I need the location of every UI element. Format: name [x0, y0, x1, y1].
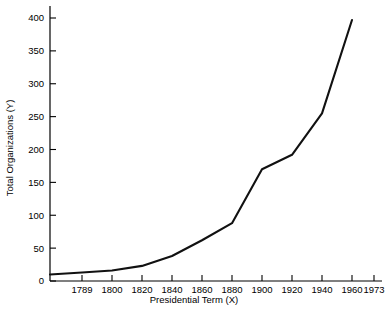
- data-series-line: [50, 20, 352, 274]
- y-axis-ticks: [50, 18, 56, 281]
- y-axis: 050100150200250300350400: [28, 6, 56, 286]
- y-axis-title: Total Organizations (Y): [4, 100, 15, 197]
- x-tick-label-1920: 1920: [281, 284, 302, 295]
- y-tick-label-0: 0: [39, 275, 44, 286]
- y-tick-label-400: 400: [28, 12, 44, 23]
- x-tick-label-1800: 1800: [101, 284, 122, 295]
- x-axis: 1789180018201840186018801900192019401960…: [50, 275, 385, 295]
- x-tick-label-1973: 1973: [363, 284, 384, 295]
- chart-container: 050100150200250300350400 178918001820184…: [0, 0, 389, 315]
- line-chart: 050100150200250300350400 178918001820184…: [0, 0, 389, 315]
- x-axis-title: Presidential Term (X): [150, 294, 239, 305]
- y-tick-label-150: 150: [28, 177, 44, 188]
- y-tick-label-250: 250: [28, 111, 44, 122]
- x-tick-label-1940: 1940: [311, 284, 332, 295]
- x-tick-label-1789: 1789: [71, 284, 92, 295]
- x-axis-ticks: [82, 275, 374, 281]
- y-tick-label-300: 300: [28, 78, 44, 89]
- y-tick-label-50: 50: [33, 243, 44, 254]
- y-axis-tick-labels: 050100150200250300350400: [28, 12, 44, 286]
- y-tick-label-100: 100: [28, 210, 44, 221]
- y-tick-label-200: 200: [28, 144, 44, 155]
- x-tick-label-1900: 1900: [251, 284, 272, 295]
- y-tick-label-350: 350: [28, 45, 44, 56]
- x-tick-label-1960: 1960: [341, 284, 362, 295]
